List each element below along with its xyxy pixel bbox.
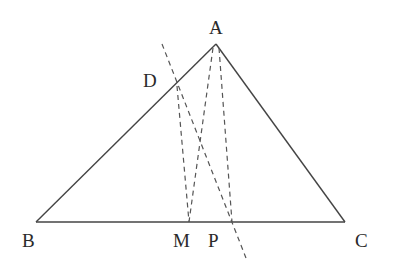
label-a: A xyxy=(209,17,223,38)
dashed-segment-dm xyxy=(177,86,189,222)
label-b: B xyxy=(22,230,35,251)
side-ab xyxy=(36,44,216,222)
label-c: C xyxy=(355,230,368,251)
dashed-line-through-d-p xyxy=(162,44,246,258)
dashed-segment-ap xyxy=(219,48,232,222)
side-ac xyxy=(216,44,345,222)
label-d: D xyxy=(143,70,157,91)
label-p: P xyxy=(208,230,219,251)
triangle-diagram: A B C D M P xyxy=(0,0,393,265)
label-m: M xyxy=(173,230,190,251)
dashed-segment-am xyxy=(189,48,213,222)
